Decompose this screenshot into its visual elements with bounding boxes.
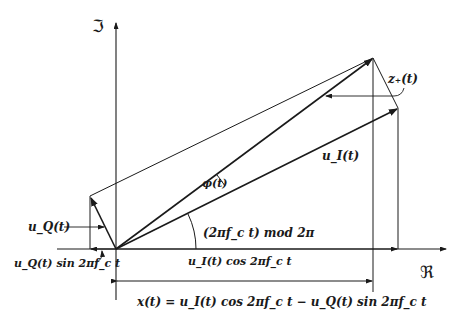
carrier-angle-arc	[188, 214, 196, 249]
phi-label: φ(t)	[202, 178, 227, 189]
z-plus-label: z₊(t)	[388, 73, 418, 85]
u-i-cos-label: u_I(t) cos 2πf_c t	[188, 256, 292, 267]
phasor-diagram	[0, 0, 462, 325]
real-axis-label: ℜ	[420, 264, 434, 281]
z-plus-leader	[326, 88, 404, 96]
u-i-label: u_I(t)	[322, 150, 359, 162]
parallelogram-top	[90, 58, 373, 196]
u-q-sin-label: u_Q(t) sin 2πf_c t	[14, 258, 120, 269]
u-q-vector	[91, 198, 116, 249]
u-q-label: u_Q(t)	[28, 221, 70, 233]
imaginary-axis-label: ℑ	[92, 18, 104, 35]
x-equation-label: x(t) = u_I(t) cos 2πf_c t − u_Q(t) sin 2…	[137, 296, 427, 308]
carrier-angle-label: (2πf_c t) mod 2π	[203, 227, 314, 239]
